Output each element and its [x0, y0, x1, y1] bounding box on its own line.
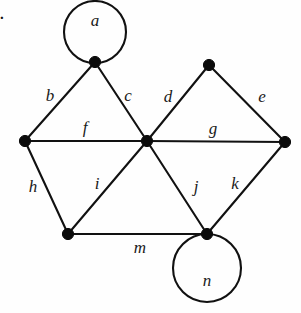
edge-label-e: e	[258, 88, 266, 105]
graph-figure: . anbcdefghijkm	[0, 0, 301, 313]
edge-label-f: f	[83, 119, 88, 136]
edges-group	[25, 62, 285, 234]
edge-label-g: g	[209, 120, 218, 137]
vertices-group	[19, 56, 290, 239]
vertex-right-vertex[interactable]	[279, 136, 290, 147]
edge-label-k: k	[231, 175, 239, 192]
edge-label-j: j	[194, 178, 199, 195]
vertex-top-vertex[interactable]	[89, 56, 100, 67]
edge-d[interactable]	[147, 65, 209, 141]
vertex-center-vertex[interactable]	[141, 135, 152, 146]
vertex-left-vertex[interactable]	[19, 135, 30, 146]
loop-edges-group	[64, 1, 241, 302]
edge-i[interactable]	[68, 141, 147, 234]
edge-label-b: b	[46, 87, 55, 104]
loop-label-a: a	[91, 12, 100, 29]
loop-edge-n[interactable]	[173, 234, 241, 302]
vertex-top-right-vertex[interactable]	[203, 59, 214, 70]
edge-c[interactable]	[95, 62, 147, 141]
edge-e[interactable]	[209, 65, 285, 142]
edge-k[interactable]	[207, 142, 285, 234]
edge-label-c: c	[124, 87, 132, 104]
edge-label-i: i	[95, 175, 100, 192]
edge-label-d: d	[164, 88, 173, 105]
edge-g[interactable]	[147, 141, 285, 142]
edge-label-m: m	[134, 239, 146, 256]
vertex-bottom-left-vertex[interactable]	[62, 228, 73, 239]
vertex-bottom-right-vertex[interactable]	[201, 228, 212, 239]
edge-label-h: h	[29, 178, 38, 195]
loop-label-n: n	[203, 272, 212, 289]
graph-canvas	[0, 0, 301, 313]
